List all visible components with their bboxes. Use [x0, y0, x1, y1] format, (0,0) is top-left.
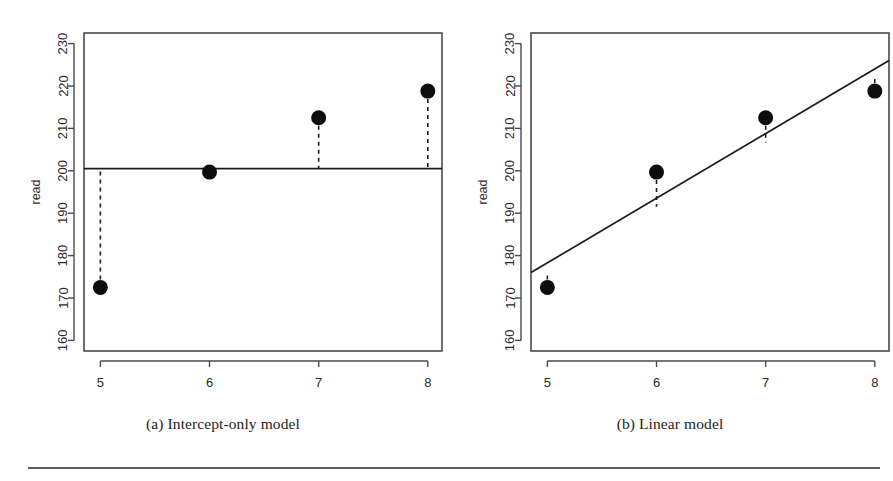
- y-axis-tick-label: 190: [503, 202, 518, 224]
- y-axis-tick-label: 180: [56, 245, 71, 267]
- regression-fit-line: [531, 61, 889, 273]
- y-axis-tick-label: 200: [503, 160, 518, 182]
- data-point: [867, 84, 882, 99]
- plot-frame: [84, 33, 442, 351]
- figure-two-panel-regression: 160170180190200210220230read5678grade (a…: [0, 0, 893, 481]
- y-axis-tick-label: 160: [56, 330, 71, 352]
- y-axis-tick-label: 160: [503, 330, 518, 352]
- y-axis-title: read: [29, 179, 43, 204]
- plot-intercept-only: 160170180190200210220230read5678grade: [0, 0, 446, 400]
- y-axis-tick-label: 230: [503, 33, 518, 55]
- figure-bottom-rule: [28, 467, 880, 469]
- y-axis-tick-label: 220: [503, 75, 518, 97]
- panel-intercept-only: 160170180190200210220230read5678grade (a…: [0, 0, 446, 450]
- y-axis-tick-label: 180: [503, 245, 518, 267]
- data-point: [420, 84, 435, 99]
- y-axis-tick-label: 200: [56, 160, 71, 182]
- x-axis-tick-label: 5: [97, 375, 104, 390]
- y-axis-tick-label: 190: [56, 202, 71, 224]
- x-axis-tick-label: 6: [206, 375, 213, 390]
- data-point: [311, 110, 326, 125]
- y-axis-tick-label: 170: [56, 287, 71, 309]
- data-point: [93, 280, 108, 295]
- panel-linear-model: 160170180190200210220230read5678grade (b…: [447, 0, 893, 450]
- x-axis-tick-label: 8: [871, 375, 878, 390]
- x-axis-tick-label: 7: [762, 375, 769, 390]
- data-point: [202, 165, 217, 180]
- plot-frame: [531, 33, 889, 351]
- x-axis-tick-label: 7: [315, 375, 322, 390]
- data-point: [540, 280, 555, 295]
- y-axis-tick-label: 170: [503, 287, 518, 309]
- y-axis-title: read: [476, 179, 490, 204]
- y-axis-tick-label: 220: [56, 75, 71, 97]
- plot-linear-model: 160170180190200210220230read5678grade: [447, 0, 893, 400]
- y-axis-tick-label: 230: [56, 33, 71, 55]
- y-axis-tick-label: 210: [56, 118, 71, 140]
- x-axis-tick-label: 8: [424, 375, 431, 390]
- x-axis-tick-label: 5: [544, 375, 551, 390]
- data-point: [758, 110, 773, 125]
- y-axis-tick-label: 210: [503, 118, 518, 140]
- data-point: [649, 165, 664, 180]
- caption-panel-b: (b) Linear model: [447, 415, 893, 433]
- x-axis-tick-label: 6: [653, 375, 660, 390]
- caption-panel-a: (a) Intercept-only model: [0, 415, 446, 433]
